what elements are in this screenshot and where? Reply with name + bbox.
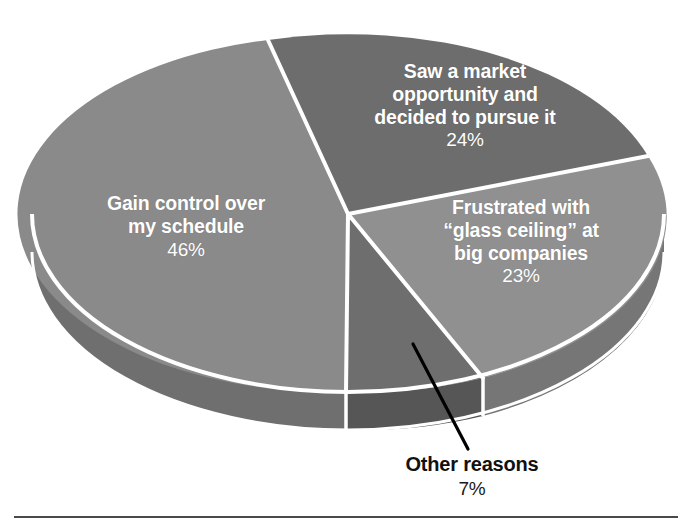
slice-label-other-line1: Other reasons — [405, 453, 538, 475]
slice-label-schedule-line1: Gain control over — [107, 192, 265, 214]
slice-label-ceiling-line1: Frustrated with — [452, 196, 590, 218]
slice-label-schedule-line2: my schedule — [128, 215, 244, 237]
slice-label-ceiling-line2: “glass ceiling” at — [443, 219, 599, 241]
pie-chart-figure: Saw a market opportunity and decided to … — [0, 0, 694, 528]
slice-label-market-opportunity: Saw a market opportunity and decided to … — [350, 60, 580, 152]
slice-value-market-opportunity: 24% — [350, 129, 580, 151]
slice-label-market-line3: decided to pursue it — [374, 106, 555, 128]
separator-other-gain — [346, 214, 348, 392]
figure-bottom-rule — [14, 516, 678, 518]
slice-label-market-line1: Saw a market — [404, 60, 526, 82]
slice-label-market-line2: opportunity and — [392, 83, 537, 105]
slice-label-other-reasons: Other reasons 7% — [372, 452, 572, 501]
slice-label-glass-ceiling: Frustrated with “glass ceiling” at big c… — [412, 196, 630, 288]
slice-value-glass-ceiling: 23% — [412, 265, 630, 287]
slice-value-other-reasons: 7% — [372, 478, 572, 501]
slice-value-gain-control: 46% — [68, 239, 304, 261]
slice-label-ceiling-line3: big companies — [454, 242, 588, 264]
slice-label-gain-control: Gain control over my schedule 46% — [68, 192, 304, 261]
